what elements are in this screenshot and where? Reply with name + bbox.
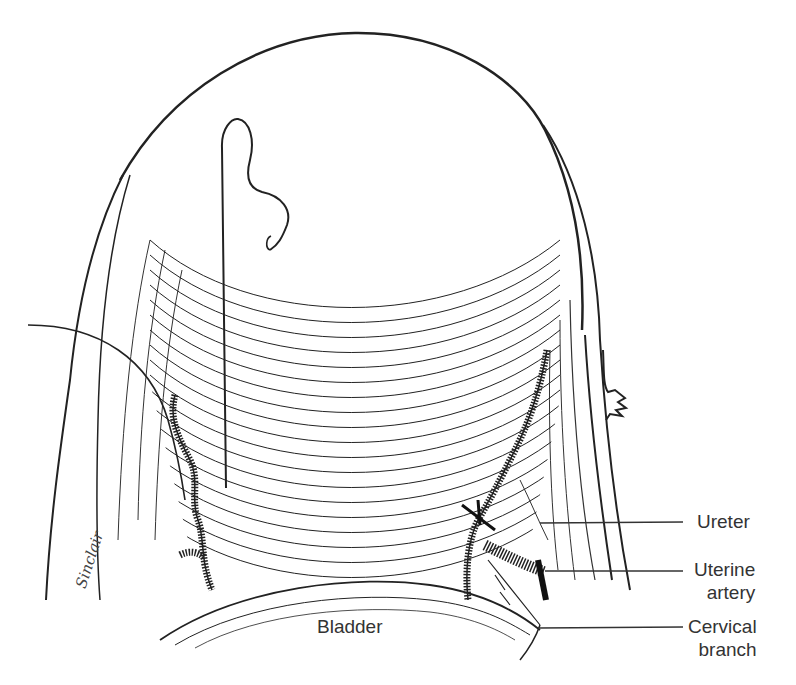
- lower-segment-hatching: [150, 240, 560, 578]
- label-ureter: Ureter: [697, 510, 750, 533]
- uterus-illustration: [0, 0, 796, 685]
- label-cervical-branch: Cervical branch: [688, 615, 757, 661]
- cervical-branch-vessel: [488, 560, 540, 625]
- left-broad-ligament: [46, 175, 123, 600]
- needle: [222, 119, 288, 488]
- leader-ureter: [540, 522, 683, 523]
- leader-cervical-branch: [538, 627, 683, 628]
- fimbria: [603, 350, 626, 420]
- ureter-structure: [520, 480, 548, 540]
- right-uterine-vessels: [462, 350, 548, 625]
- suture-thread: [28, 325, 185, 500]
- label-uterine-artery: Uterine artery: [694, 558, 755, 604]
- illustration-canvas: Ureter Uterine artery Cervical branch Bl…: [0, 0, 796, 685]
- label-bladder: Bladder: [317, 615, 383, 638]
- suture-tip: [267, 236, 271, 250]
- left-uterine-vessels: [173, 395, 212, 590]
